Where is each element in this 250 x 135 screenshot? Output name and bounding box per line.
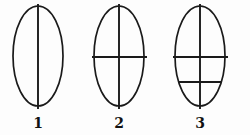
ellipse-figure-1 [13, 4, 63, 109]
ellipse-figure-2 [92, 4, 147, 109]
figure-label-2: 2 [114, 115, 124, 131]
diagram-panel: 1 2 3 [0, 0, 250, 135]
three-ellipse-diagram: 1 2 3 [0, 0, 250, 135]
figure-label-3: 3 [195, 115, 205, 131]
ellipse-figure-3 [173, 4, 228, 109]
figure-label-1: 1 [33, 115, 43, 131]
